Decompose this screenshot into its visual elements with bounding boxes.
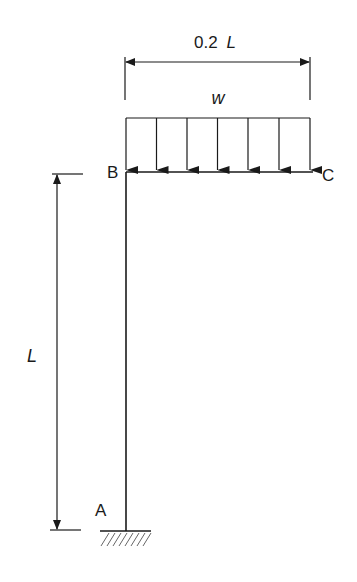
fixed-support-icon <box>100 531 151 546</box>
svg-text:0.2 L: 0.2 L <box>194 33 236 52</box>
span-dimension-symbol: L <box>226 33 235 52</box>
height-dimension: L <box>27 174 83 530</box>
distributed-load: w <box>126 88 310 170</box>
load-label: w <box>212 88 226 108</box>
height-dimension-label: L <box>27 346 37 366</box>
node-a-label: A <box>95 501 107 520</box>
node-c-label: C <box>322 166 334 185</box>
span-dimension-value: 0.2 <box>194 33 218 52</box>
node-b-label: B <box>107 163 118 182</box>
frame-diagram: 0.2 L w B C A L <box>0 0 357 582</box>
